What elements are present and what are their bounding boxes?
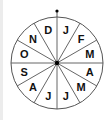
month-label-january: J <box>63 24 69 36</box>
month-wheel: JFMAMJJASOND <box>0 0 108 120</box>
top-marker-dot <box>55 9 58 12</box>
month-label-july: J <box>45 90 51 102</box>
month-label-may: M <box>76 81 85 93</box>
month-label-december: D <box>44 24 52 36</box>
month-label-february: F <box>78 33 85 45</box>
month-label-august: A <box>29 81 37 93</box>
month-label-march: M <box>85 48 94 60</box>
center-hub <box>55 61 59 65</box>
month-label-october: O <box>20 48 29 60</box>
month-label-june: J <box>63 90 69 102</box>
month-label-april: A <box>86 66 94 78</box>
month-label-november: N <box>29 33 37 45</box>
month-label-september: S <box>20 66 27 78</box>
